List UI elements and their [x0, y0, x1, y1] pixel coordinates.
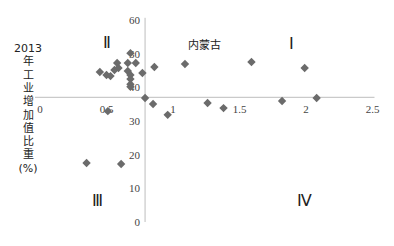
- quadrant-label: Ⅳ: [297, 192, 312, 209]
- data-point-marker: [117, 160, 125, 168]
- y-axis-title-line: 增: [23, 94, 34, 108]
- y-axis-title-line: 业: [23, 82, 34, 95]
- data-point-marker: [141, 94, 149, 102]
- scatter-chart: 2013年工业增加值比重(%) 00.511.522.5 01020304050…: [0, 0, 394, 246]
- data-point-marker: [312, 94, 320, 102]
- y-axis-title-line: (%): [18, 162, 37, 175]
- y-axis-title-line: 2013: [14, 42, 42, 55]
- data-points: [82, 49, 320, 168]
- y-tick-label: 10: [129, 182, 141, 194]
- x-tick-label: 1.5: [233, 103, 247, 115]
- data-point-marker: [181, 60, 189, 68]
- point-label: 内蒙古: [188, 38, 221, 52]
- quadrant-label: Ⅲ: [92, 192, 103, 209]
- x-tick-label: 0: [37, 103, 43, 115]
- x-tick-label: 1: [170, 103, 176, 115]
- data-point-marker: [132, 59, 140, 67]
- y-axis-title-line: 重: [23, 147, 34, 161]
- data-point-marker: [203, 99, 211, 107]
- y-tick-label: 30: [129, 115, 141, 127]
- data-point-marker: [150, 63, 158, 71]
- y-axis-title-line: 工: [23, 69, 34, 82]
- y-axis-title-line: 比: [23, 135, 34, 148]
- quadrant-label: Ⅰ: [289, 35, 294, 52]
- y-tick-label: 20: [129, 149, 141, 161]
- data-point-marker: [219, 104, 227, 112]
- data-point-marker: [82, 159, 90, 167]
- y-tick-label: 0: [135, 216, 141, 228]
- y-axis-title-line: 值: [23, 122, 34, 135]
- quadrant-label: Ⅱ: [103, 34, 111, 51]
- data-point-marker: [124, 59, 132, 67]
- y-tick-label: 60: [129, 14, 141, 26]
- y-axis-title-line: 年: [23, 54, 34, 68]
- data-point-marker: [149, 100, 157, 108]
- y-axis-tick-labels: 0102030405060: [129, 14, 141, 228]
- y-axis-title-line: 加: [23, 109, 34, 122]
- data-point-marker: [247, 58, 255, 66]
- data-point-marker: [300, 64, 308, 72]
- annotations: 内蒙古ⅠⅡⅢⅣ: [92, 34, 312, 209]
- x-tick-label: 2.5: [366, 103, 380, 115]
- x-tick-label: 2: [303, 103, 309, 115]
- data-point-marker: [278, 97, 286, 105]
